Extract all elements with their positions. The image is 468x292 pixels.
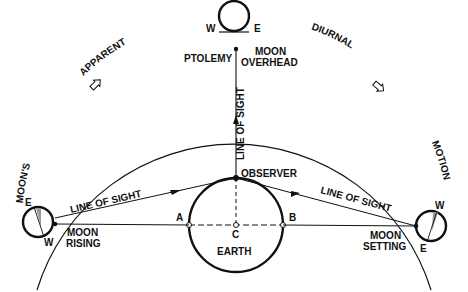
arc-direction-arrow-right-icon — [372, 80, 387, 95]
horizon-line-left — [56, 224, 189, 225]
arc-label-diurnal-text: DIURNAL — [310, 21, 356, 51]
moon-setting-west: W — [435, 200, 445, 211]
moon-rising-west: W — [44, 237, 54, 248]
observer-label: OBSERVER — [241, 168, 298, 179]
moon-overhead-east: E — [254, 23, 261, 34]
arc-label-diurnal: DIURNAL — [310, 21, 356, 51]
line-of-sight-endpoint-top — [234, 47, 238, 51]
moon-overhead-west: W — [206, 23, 216, 34]
arc-label-motion: MOTION — [430, 139, 453, 181]
arc-label-motion-text: MOTION — [430, 139, 453, 181]
arc-label-apparent-text: APPARENT — [77, 36, 128, 78]
celestial-arc — [37, 144, 431, 290]
right-line-of-sight-label: LINE OF SIGHT — [319, 184, 392, 213]
moon-setting — [414, 211, 446, 242]
moon-overhead-label-2: OVERHEAD — [241, 57, 298, 68]
point-c-label: C — [232, 229, 239, 240]
moon-overhead — [219, 1, 249, 33]
moon-rising-label-2: RISING — [66, 238, 101, 249]
moon-setting-east: E — [420, 243, 427, 254]
moon-overhead-label-1: MOON — [255, 46, 286, 57]
moon-rising-east: E — [25, 197, 32, 208]
point-a-label: A — [176, 212, 183, 223]
left-line-arrow-icon — [170, 190, 181, 195]
moon-setting-label-1: MOON — [370, 230, 401, 241]
moon-rising — [23, 207, 57, 237]
arc-label-apparent: APPARENT — [77, 36, 128, 78]
ptolemy-label: PTOLEMY — [184, 53, 232, 64]
earth-label: EARTH — [217, 246, 251, 257]
arc-direction-arrow-left-icon — [89, 77, 104, 92]
moon-setting-label-2: SETTING — [363, 241, 407, 252]
moon-diurnal-motion-diagram: MOON'S APPARENT DIURNAL MOTION W E PTOLE… — [0, 0, 468, 292]
horizon-line-right — [283, 225, 415, 226]
point-c — [234, 223, 239, 228]
point-b-label: B — [289, 212, 296, 223]
right-line-arrow-icon — [291, 191, 300, 197]
vertical-line-of-sight-label: LINE OF SIGHT — [235, 87, 246, 160]
moon-rising-label-1: MOON — [67, 227, 98, 238]
